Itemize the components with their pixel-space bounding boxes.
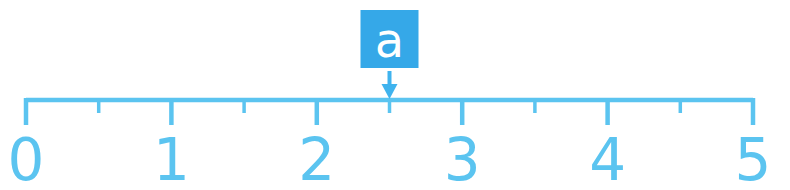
marker-group: a — [361, 10, 419, 99]
marker-letter: a — [375, 12, 404, 68]
tick-label-3: 3 — [444, 126, 481, 190]
down-arrow-icon — [382, 84, 398, 99]
tick-label-group: 012345 — [8, 126, 772, 190]
number-line-figure: 012345 a — [0, 0, 790, 190]
tick-label-4: 4 — [589, 126, 626, 190]
tick-label-0: 0 — [8, 126, 45, 190]
tick-label-5: 5 — [735, 126, 772, 190]
number-line-canvas: 012345 a — [0, 0, 790, 190]
tick-label-2: 2 — [298, 126, 335, 190]
tick-label-1: 1 — [153, 126, 190, 190]
